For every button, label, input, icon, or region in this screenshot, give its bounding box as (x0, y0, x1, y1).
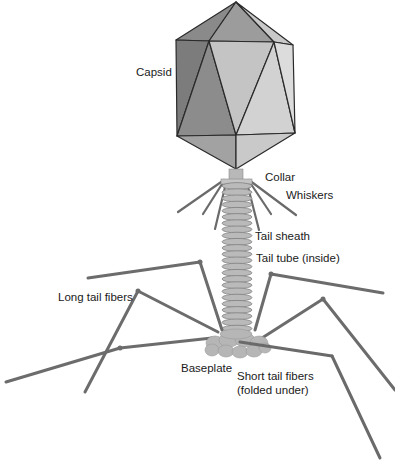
phage-diagram (0, 0, 395, 462)
label-short-tail-fibers: Short tail fibers (237, 370, 314, 383)
label-capsid: Capsid (136, 66, 172, 79)
capsid-face-bottom-left (177, 135, 236, 169)
label-tail-sheath: Tail sheath (255, 230, 310, 243)
tail-sheath (222, 183, 252, 332)
collar (221, 169, 252, 184)
baseplate (205, 329, 271, 358)
label-whiskers: Whiskers (286, 189, 333, 202)
label-collar: Collar (265, 171, 295, 184)
label-short-tail-fibers-note: (folded under) (237, 384, 309, 397)
label-long-tail-fibers: Long tail fibers (58, 291, 133, 304)
label-baseplate: Baseplate (181, 362, 232, 375)
capsid-face-bottom-right (236, 133, 295, 169)
capsid (176, 2, 295, 169)
short-tail-fiber (240, 342, 380, 458)
label-tail-tube: Tail tube (inside) (256, 252, 340, 265)
